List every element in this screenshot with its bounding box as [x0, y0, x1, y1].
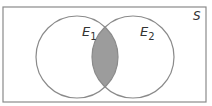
venn-diagram: S E1 E2: [0, 0, 212, 106]
universe-label: S: [193, 9, 201, 23]
